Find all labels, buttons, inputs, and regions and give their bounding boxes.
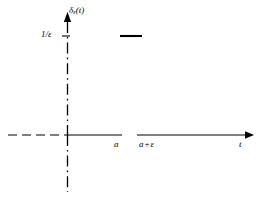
horizontal-axis-arrow-icon xyxy=(245,131,254,139)
y-axis-label: δε(t) xyxy=(69,6,84,16)
x-axis-label: t xyxy=(239,140,242,149)
x-tick-label-a-plus-epsilon: a+ε xyxy=(139,140,154,149)
x-tick-label-a-plus-epsilon-rhs: ε xyxy=(151,139,155,149)
x-tick-label-a-plus-epsilon-operator: + xyxy=(144,139,151,149)
figure-container: δε(t) 1/ε a a+ε t xyxy=(0,0,264,213)
x-tick-label-a-plus-epsilon-lhs: a xyxy=(139,139,144,149)
plot-canvas xyxy=(0,0,264,213)
x-tick-label-a: a xyxy=(114,140,119,149)
y-tick-label-one-over-epsilon: 1/ε xyxy=(41,30,52,39)
y-axis-label-argument: (t) xyxy=(76,5,85,15)
